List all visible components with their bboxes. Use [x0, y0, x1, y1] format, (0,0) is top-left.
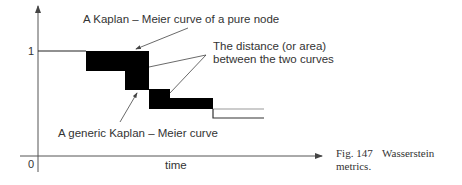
pure-node-pointer — [136, 28, 188, 49]
generic-curve-annotation: A generic Kaplan – Meier curve — [58, 127, 218, 139]
figure-caption-title: Wasserstein — [382, 147, 435, 159]
x-axis-label: time — [165, 159, 187, 171]
pure-node-annotation: A Kaplan – Meier curve of a pure node — [83, 13, 279, 25]
y-tick-one: 1 — [28, 45, 34, 57]
distance-annotation-line2: between the two curves — [213, 53, 334, 65]
distance-pointer-upper — [149, 55, 206, 67]
origin-label: 0 — [28, 158, 34, 170]
figure-caption-label: Fig. 147 — [336, 147, 373, 159]
figure-caption-line2: metrics. — [336, 160, 371, 172]
wasserstein-diagram: 1 0 time A Kaplan – Meier curve of a pur… — [0, 0, 462, 185]
area-between-curves — [86, 51, 213, 109]
generic-curve-tail — [213, 109, 264, 118]
distance-annotation-line1: The distance (or area) — [213, 40, 326, 52]
distance-pointer-lower — [170, 55, 206, 93]
generic-curve-pointer — [120, 93, 137, 122]
